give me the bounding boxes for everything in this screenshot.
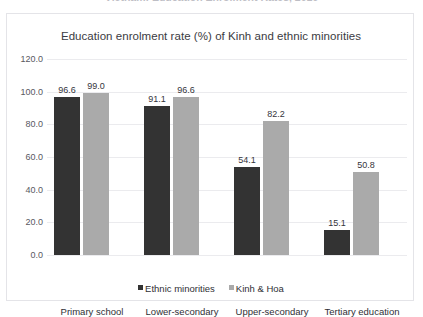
bar-value-label: 50.8 — [346, 160, 386, 170]
y-axis-tick-label: 120.0 — [9, 54, 43, 64]
y-axis-tick-label: 100.0 — [9, 87, 43, 97]
gridline — [47, 255, 407, 256]
bar-dark[interactable] — [234, 167, 260, 255]
bar-light[interactable] — [173, 97, 199, 255]
x-axis-category-label: Tertiary education — [307, 306, 417, 317]
legend-item[interactable]: Kinh & Hoa — [229, 282, 284, 294]
bar-group: 54.182.2 — [227, 59, 317, 255]
chart-title: Education enrolment rate (%) of Kinh and… — [7, 30, 415, 42]
clipped-page-heading-strip: Vietnam: Education Enrolment Rates, 2016 — [0, 0, 423, 7]
plot-area: 96.699.0Primary school91.196.6Lower-seco… — [47, 59, 407, 255]
legend-item[interactable]: Ethnic minorities — [138, 282, 215, 294]
clipped-page-heading: Vietnam: Education Enrolment Rates, 2016 — [0, 0, 423, 3]
bar-light[interactable] — [353, 172, 379, 255]
bar-dark[interactable] — [144, 106, 170, 255]
y-axis-tick-label: 0.0 — [9, 250, 43, 260]
bar-dark[interactable] — [324, 230, 350, 255]
legend-label: Ethnic minorities — [145, 283, 215, 294]
bar-light[interactable] — [83, 93, 109, 255]
y-axis-tick-label: 20.0 — [9, 217, 43, 227]
bar-value-label: 96.6 — [166, 85, 206, 95]
bar-group: 91.196.6 — [137, 59, 227, 255]
legend-swatch-icon — [229, 285, 234, 290]
legend-label: Kinh & Hoa — [236, 283, 284, 294]
bar-value-label: 82.2 — [256, 109, 296, 119]
bar-value-label: 91.1 — [137, 94, 177, 104]
bar-light[interactable] — [263, 121, 289, 255]
y-axis-tick-label: 40.0 — [9, 185, 43, 195]
legend-swatch-icon — [138, 285, 143, 290]
bar-dark[interactable] — [54, 97, 80, 255]
y-axis: 0.020.040.060.080.0100.0120.0 — [7, 59, 43, 255]
bar-group: 15.150.8 — [317, 59, 407, 255]
bar-value-label: 54.1 — [227, 155, 267, 165]
bar-value-label: 15.1 — [317, 218, 357, 228]
y-axis-tick-label: 80.0 — [9, 119, 43, 129]
bar-group: 96.699.0 — [47, 59, 137, 255]
chart-legend: Ethnic minoritiesKinh & Hoa — [7, 282, 415, 294]
y-axis-tick-label: 60.0 — [9, 152, 43, 162]
bar-value-label: 99.0 — [76, 81, 116, 91]
chart-card: Education enrolment rate (%) of Kinh and… — [6, 13, 414, 301]
